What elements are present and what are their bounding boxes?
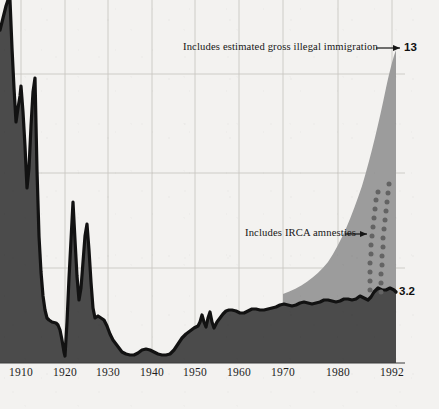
- value-label-line-end: 3.2: [399, 285, 415, 297]
- x-tick-label-1910: 1910: [9, 366, 33, 378]
- immigration-area-chart: [0, 0, 439, 409]
- x-tick-label-1930: 1930: [96, 366, 120, 378]
- x-tick-label-1960: 1960: [227, 366, 251, 378]
- x-tick-label-1950: 1950: [183, 366, 207, 378]
- chart-canvas: 1910 1920 1930 1940 1950 1960 1970 1980 …: [0, 0, 439, 409]
- x-tick-label-1970: 1970: [271, 366, 295, 378]
- x-tick-label-1920: 1920: [53, 366, 77, 378]
- x-tick-label-1980: 1980: [326, 366, 350, 378]
- value-label-top: 13: [404, 41, 417, 53]
- x-tick-label-1992: 1992: [380, 366, 404, 378]
- annotation-irca-amnesties: Includes IRCA amnesties: [245, 227, 356, 238]
- annotation-illegal-immigration: Includes estimated gross illegal immigra…: [183, 41, 378, 52]
- x-tick-label-1940: 1940: [140, 366, 164, 378]
